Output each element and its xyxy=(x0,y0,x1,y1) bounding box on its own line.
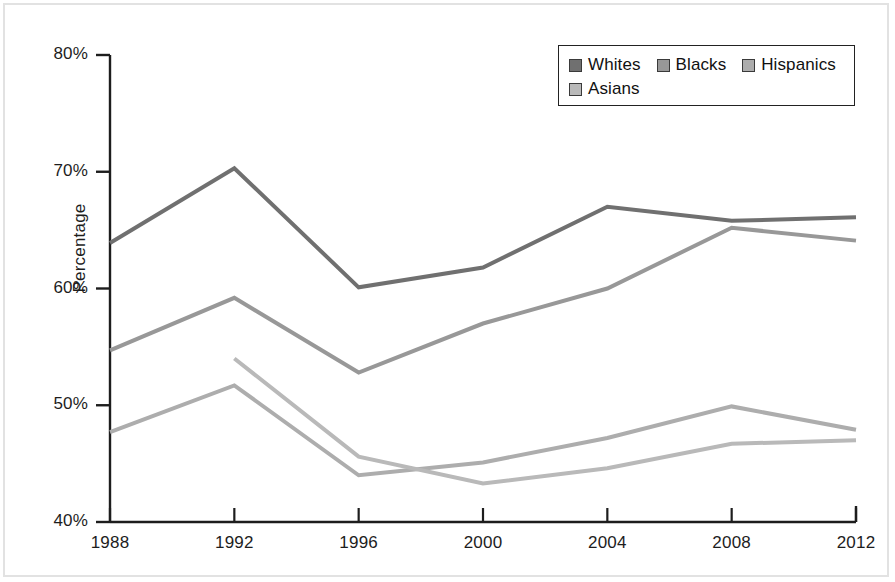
chart-legend: Whites Blacks Hispanics Asians xyxy=(558,45,855,106)
legend-swatch-blacks-icon xyxy=(657,59,670,72)
legend-swatch-asians-icon xyxy=(569,83,582,96)
legend-item-whites[interactable]: Whites xyxy=(569,55,641,75)
y-tick-label: 60% xyxy=(26,278,88,298)
x-tick-label: 2008 xyxy=(692,533,772,553)
x-axis-ticks xyxy=(110,508,856,522)
x-tick-label: 2000 xyxy=(443,533,523,553)
legend-label-asians: Asians xyxy=(588,79,640,99)
y-axis-ticks xyxy=(96,55,110,522)
x-tick-label: 1996 xyxy=(319,533,399,553)
legend-item-hispanics[interactable]: Hispanics xyxy=(742,55,836,75)
series-line-hispanics xyxy=(110,385,856,475)
x-tick-label: 2012 xyxy=(816,533,895,553)
x-tick-label: 1988 xyxy=(70,533,150,553)
series-line-asians xyxy=(234,359,856,484)
axis-lines xyxy=(110,55,856,522)
legend-label-blacks: Blacks xyxy=(676,55,727,75)
legend-row-2: Asians xyxy=(569,77,844,101)
x-tick-label: 1992 xyxy=(194,533,274,553)
y-tick-label: 40% xyxy=(26,511,88,531)
legend-label-whites: Whites xyxy=(588,55,641,75)
y-tick-label: 80% xyxy=(26,44,88,64)
y-tick-label: 50% xyxy=(26,394,88,414)
legend-swatch-whites-icon xyxy=(569,59,582,72)
legend-item-asians[interactable]: Asians xyxy=(569,79,640,99)
series-line-blacks xyxy=(110,228,856,373)
y-tick-label: 70% xyxy=(26,161,88,181)
legend-label-hispanics: Hispanics xyxy=(761,55,836,75)
series-lines xyxy=(110,168,856,483)
legend-row-1: Whites Blacks Hispanics xyxy=(569,53,844,77)
legend-item-blacks[interactable]: Blacks xyxy=(657,55,727,75)
x-tick-label: 2004 xyxy=(567,533,647,553)
legend-swatch-hispanics-icon xyxy=(742,59,755,72)
chart-page: Percentage 40%50%60%70%80% 1988199219962… xyxy=(0,0,895,582)
